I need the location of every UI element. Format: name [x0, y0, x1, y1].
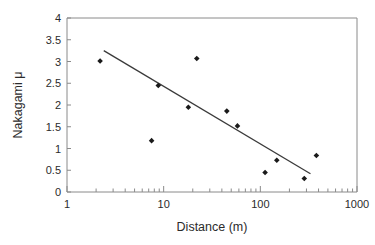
nakagami-distance-scatter-chart: 00.511.522.533.54 1101001000 Distance (m… — [0, 0, 375, 245]
x-tick-label: 1000 — [345, 198, 369, 210]
y-tick-label: 2.5 — [46, 77, 61, 89]
y-axis-label: Nakagami μ — [11, 72, 25, 139]
y-tick-label: 4 — [55, 12, 61, 24]
y-tick-label: 2 — [55, 99, 61, 111]
y-tick-label: 0 — [55, 186, 61, 198]
x-tick-label: 100 — [251, 198, 269, 210]
y-tick-label: 1 — [55, 143, 61, 155]
x-tick-label: 10 — [158, 198, 170, 210]
y-tick-label: 0.5 — [46, 164, 61, 176]
chart-canvas: 00.511.522.533.54 1101001000 Distance (m… — [0, 0, 375, 245]
y-tick-label: 1.5 — [46, 121, 61, 133]
y-tick-label: 3.5 — [46, 34, 61, 46]
y-tick-label: 3 — [55, 56, 61, 68]
x-axis-label: Distance (m) — [177, 220, 248, 234]
x-tick-label: 1 — [64, 198, 70, 210]
